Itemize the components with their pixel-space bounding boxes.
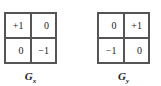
kernel-gy-grid: 0 +1 −1 0: [97, 12, 150, 64]
kernel-gx-grid: +1 0 0 −1: [4, 12, 57, 64]
kernel-gx-cell-r0c0: +1: [5, 13, 31, 38]
kernel-gx-label-sub: x: [33, 77, 37, 85]
kernel-gy-cell-r0c1: +1: [124, 13, 150, 38]
kernel-gy-label: Gy: [97, 70, 150, 85]
kernel-gy-cell-r1c0: −1: [98, 38, 124, 63]
kernel-gx-cell-r1c0: 0: [5, 38, 31, 63]
kernel-gy-cell-r0c0: 0: [98, 13, 124, 38]
kernel-gy-label-sub: y: [126, 77, 129, 85]
kernel-gx-cell-r1c1: −1: [31, 38, 57, 63]
kernel-gy-cell-r1c1: 0: [124, 38, 150, 63]
kernel-gy-label-main: G: [118, 70, 126, 82]
kernel-gx-cell-r0c1: 0: [31, 13, 57, 38]
kernel-gx-label: Gx: [4, 70, 57, 85]
kernel-gx-label-main: G: [25, 70, 33, 82]
